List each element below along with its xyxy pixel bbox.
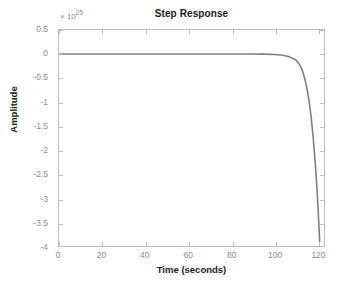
y-axis-tick xyxy=(59,30,63,31)
x-axis-tick xyxy=(59,242,60,246)
exponent-power: 25 xyxy=(76,9,83,16)
y-axis-tick-label: -3.5 xyxy=(33,218,53,228)
y-axis-tick-label: -3 xyxy=(40,194,53,204)
y-axis-tick-label: -1.5 xyxy=(33,121,53,131)
y-axis-tick xyxy=(320,78,324,79)
x-axis-tick-label: 20 xyxy=(97,250,106,260)
y-axis-tick xyxy=(320,30,324,31)
y-axis-tick-label: -0.5 xyxy=(33,72,53,82)
y-axis-tick xyxy=(59,175,63,176)
x-axis-tick xyxy=(276,242,277,246)
y-axis-tick xyxy=(59,78,63,79)
chart-title: Step Response xyxy=(58,8,325,19)
y-axis-tick-label: 0 xyxy=(43,48,53,58)
x-axis-tick xyxy=(102,242,103,246)
x-axis-tick xyxy=(189,30,190,34)
x-axis-tick xyxy=(233,242,234,246)
plot-area xyxy=(58,29,325,247)
y-axis-tick-label: -2 xyxy=(40,145,53,155)
x-axis-tick-label: 120 xyxy=(311,250,325,260)
y-axis-tick-label: 0.5 xyxy=(36,24,53,34)
y-axis-tick xyxy=(59,200,63,201)
y-axis-tick xyxy=(320,200,324,201)
x-axis-tick xyxy=(146,30,147,34)
y-axis-tick xyxy=(320,175,324,176)
x-axis-tick-label: 80 xyxy=(227,250,236,260)
y-axis-tick-label: -2.5 xyxy=(33,169,53,179)
step-response-curve xyxy=(59,54,320,241)
x-axis-tick xyxy=(276,30,277,34)
y-axis-tick xyxy=(320,103,324,104)
x-axis-tick-label: 100 xyxy=(268,250,282,260)
x-axis-tick-label: 60 xyxy=(184,250,193,260)
exponent-mantissa: × 10 xyxy=(60,12,76,21)
y-axis-tick xyxy=(59,127,63,128)
x-axis-tick xyxy=(319,242,320,246)
x-axis-tick xyxy=(189,242,190,246)
x-axis-tick xyxy=(146,242,147,246)
y-axis-tick xyxy=(59,151,63,152)
x-axis-tick-label: 0 xyxy=(56,250,61,260)
x-axis-tick-label: 40 xyxy=(140,250,149,260)
x-axis-tick xyxy=(233,30,234,34)
step-response-curve-svg xyxy=(59,30,324,246)
x-axis-tick xyxy=(102,30,103,34)
step-response-figure: Step Response × 1025 0.50-0.5-1-1.5-2-2.… xyxy=(0,0,345,284)
x-axis-title: Time (seconds) xyxy=(58,264,325,275)
y-axis-tick xyxy=(320,224,324,225)
y-axis-tick xyxy=(320,151,324,152)
y-axis-exponent-multiplier: × 1025 xyxy=(60,9,83,21)
x-axis-tick-labels: 020406080100120 xyxy=(58,250,325,264)
y-axis-tick-label: -4 xyxy=(40,242,53,252)
y-axis-tick xyxy=(59,103,63,104)
y-axis-tick xyxy=(320,127,324,128)
y-axis-tick xyxy=(59,54,63,55)
y-axis-title: Amplitude xyxy=(8,60,19,160)
y-axis-tick-label: -1 xyxy=(40,97,53,107)
y-axis-tick xyxy=(59,224,63,225)
y-axis-tick xyxy=(320,54,324,55)
